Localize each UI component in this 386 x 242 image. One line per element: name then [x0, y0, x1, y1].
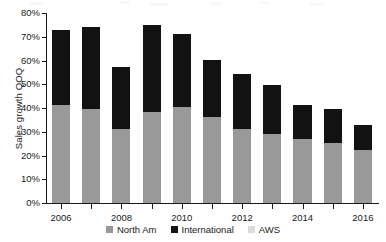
y-tick-label: 20% — [21, 150, 40, 161]
y-tick-label: 80% — [21, 7, 40, 18]
x-tick-mark — [303, 204, 304, 209]
legend-item-aws[interactable]: AWS — [248, 224, 280, 235]
bar-2010 — [173, 34, 191, 203]
x-tick-label: 2014 — [292, 212, 313, 223]
bar-2015 — [324, 109, 342, 203]
x-tick-mark — [272, 204, 273, 209]
bar-segment-north-am — [143, 112, 161, 203]
bar-2013 — [263, 85, 281, 203]
bar-segment-north-am — [354, 150, 372, 203]
y-tick-mark — [42, 132, 46, 133]
legend-item-international[interactable]: International — [171, 224, 234, 235]
x-tick-mark — [182, 204, 183, 209]
x-tick-label: 2010 — [171, 212, 192, 223]
bar-segment-north-am — [173, 107, 191, 203]
bar-chart-figure: Sales growth QOQ 0%10%20%30%40%50%60%70%… — [0, 0, 386, 242]
bar-segment-international — [324, 109, 342, 143]
y-tick-mark — [42, 61, 46, 62]
bar-segment-north-am — [112, 129, 130, 203]
bar-2011 — [203, 60, 221, 203]
y-tick-label: 30% — [21, 126, 40, 137]
bar-segment-north-am — [52, 105, 70, 203]
y-tick-mark — [42, 84, 46, 85]
bar-segment-north-am — [324, 143, 342, 203]
bar-2016 — [354, 125, 372, 203]
y-tick-mark — [42, 156, 46, 157]
x-tick-mark — [61, 204, 62, 209]
bar-segment-north-am — [203, 117, 221, 203]
y-tick-mark — [42, 37, 46, 38]
bar-2007 — [82, 27, 100, 203]
bar-segment-international — [52, 30, 70, 105]
bar-segment-international — [293, 105, 311, 139]
bar-segment-international — [173, 34, 191, 107]
y-tick-mark — [42, 13, 46, 14]
x-tick-label: 2006 — [51, 212, 72, 223]
bar-segment-international — [263, 85, 281, 134]
x-tick-mark — [333, 204, 334, 209]
legend-item-north-am[interactable]: North Am — [106, 224, 157, 235]
legend-swatch-icon — [106, 226, 113, 233]
y-tick-mark — [42, 108, 46, 109]
bar-2008 — [112, 67, 130, 203]
bar-segment-international — [354, 125, 372, 150]
y-tick-label: 60% — [21, 55, 40, 66]
y-tick-mark — [42, 203, 46, 204]
x-tick-mark — [363, 204, 364, 209]
y-tick-label: 0% — [26, 197, 40, 208]
scan-artifact — [0, 0, 386, 10]
bar-segment-north-am — [263, 134, 281, 203]
x-tick-label: 2016 — [352, 212, 373, 223]
bar-segment-international — [112, 67, 130, 129]
bar-2009 — [143, 25, 161, 203]
y-tick-mark — [42, 179, 46, 180]
bar-segment-international — [143, 25, 161, 111]
x-tick-mark — [212, 204, 213, 209]
x-tick-mark — [91, 204, 92, 209]
bar-2014 — [293, 105, 311, 203]
x-tick-mark — [152, 204, 153, 209]
chart-legend: North AmInternationalAWS — [0, 224, 386, 235]
x-tick-mark — [242, 204, 243, 209]
bar-segment-north-am — [293, 139, 311, 203]
y-tick-label: 70% — [21, 31, 40, 42]
bar-segment-international — [82, 27, 100, 109]
bar-2012 — [233, 74, 251, 203]
bar-segment-north-am — [233, 129, 251, 203]
plot-area: 0%10%20%30%40%50%60%70%80% 2006200820102… — [46, 13, 378, 203]
legend-swatch-icon — [248, 226, 255, 233]
x-tick-label: 2012 — [232, 212, 253, 223]
legend-label: AWS — [259, 224, 280, 235]
legend-label: North Am — [117, 224, 157, 235]
x-tick-mark — [121, 204, 122, 209]
bar-segment-north-am — [82, 109, 100, 203]
bar-segment-international — [233, 74, 251, 129]
bar-segment-international — [203, 60, 221, 117]
bar-2006 — [52, 30, 70, 203]
y-tick-label: 50% — [21, 78, 40, 89]
y-tick-label: 10% — [21, 173, 40, 184]
legend-label: International — [182, 224, 234, 235]
legend-swatch-icon — [171, 226, 178, 233]
y-tick-label: 40% — [21, 102, 40, 113]
x-tick-label: 2008 — [111, 212, 132, 223]
